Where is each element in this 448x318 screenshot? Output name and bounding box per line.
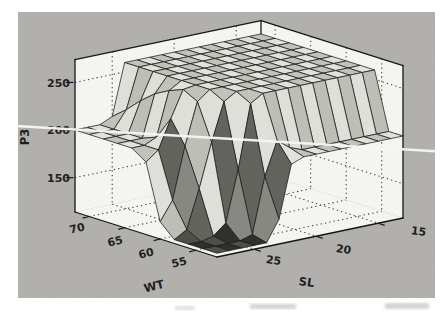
surface-plot-figure: 250 200 150 P3 70 65 60 55 WT 25 20 15 S… [0,0,448,318]
scan-grain-overlay [18,12,435,298]
scanned-figure-page: 250 200 150 P3 70 65 60 55 WT 25 20 15 S… [0,0,448,318]
